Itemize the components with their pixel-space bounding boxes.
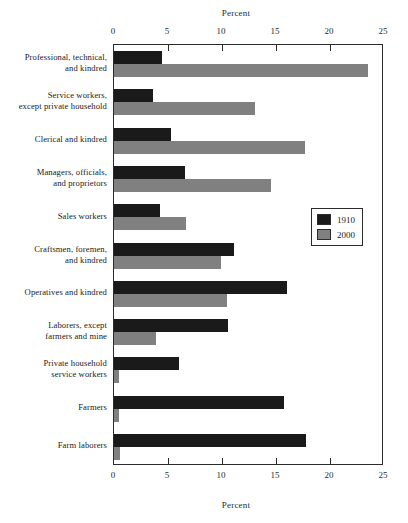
bar-1910 xyxy=(114,357,179,370)
category-label: Private householdservice workers xyxy=(0,358,107,380)
x-tick-label: 15 xyxy=(271,26,280,36)
bar-group xyxy=(114,166,382,192)
x-tick-label: 5 xyxy=(165,470,170,480)
bar-2000 xyxy=(114,64,368,77)
bar-1910 xyxy=(114,281,287,294)
bar-1910 xyxy=(114,89,153,102)
x-tick-label: 5 xyxy=(165,26,170,36)
top-axis-tick-labels: 0510152025 xyxy=(0,26,408,38)
category-label: Farm laborers xyxy=(0,440,107,451)
category-label: Laborers, exceptfarmers and mine xyxy=(0,320,107,342)
category-label-line: and kindred xyxy=(0,63,107,74)
category-label-line: Laborers, except xyxy=(0,320,107,331)
bar-1910 xyxy=(114,243,234,256)
category-label: Clerical and kindred xyxy=(0,134,107,145)
bar-1910 xyxy=(114,434,306,447)
bar-group xyxy=(114,281,382,307)
x-tick-label: 10 xyxy=(217,470,226,480)
bar-1910 xyxy=(114,319,228,332)
bar-1910 xyxy=(114,51,162,64)
category-label-line: and proprietors xyxy=(0,178,107,189)
x-tick-label: 10 xyxy=(217,26,226,36)
bottom-axis-title: Percent xyxy=(0,500,408,510)
bar-group xyxy=(114,396,382,422)
bar-2000 xyxy=(114,217,186,230)
x-tick-label: 0 xyxy=(111,26,116,36)
bar-group xyxy=(114,128,382,154)
bottom-axis-title-text: Percent xyxy=(222,500,250,510)
category-label-line: Sales workers xyxy=(0,211,107,222)
bar-group xyxy=(114,243,382,269)
x-tick-label: 0 xyxy=(111,470,116,480)
top-axis-title: Percent xyxy=(0,8,408,18)
bar-group xyxy=(114,319,382,345)
x-tick-label: 20 xyxy=(325,470,334,480)
bar-group xyxy=(114,357,382,383)
category-label: Farmers xyxy=(0,402,107,413)
bar-2000 xyxy=(114,141,305,154)
x-tickmark xyxy=(330,45,331,51)
bar-group xyxy=(114,434,382,460)
category-label-line: Private household xyxy=(0,358,107,369)
category-label-line: Farmers xyxy=(0,402,107,413)
legend-label: 2000 xyxy=(337,230,355,240)
bar-1910 xyxy=(114,166,185,179)
bar-2000 xyxy=(114,179,271,192)
category-label: Sales workers xyxy=(0,211,107,222)
category-label: Service workers,except private household xyxy=(0,90,107,112)
category-label-line: Managers, officials, xyxy=(0,167,107,178)
category-label-line: Clerical and kindred xyxy=(0,134,107,145)
category-label: Managers, officials,and proprietors xyxy=(0,167,107,189)
category-axis-labels: Professional, technical,and kindredServi… xyxy=(0,44,107,465)
bar-group xyxy=(114,89,382,115)
category-label-line: Service workers, xyxy=(0,90,107,101)
legend-label: 1910 xyxy=(337,215,355,225)
category-label-line: Farm laborers xyxy=(0,440,107,451)
category-label-line: farmers and mine xyxy=(0,331,107,342)
bar-1910 xyxy=(114,396,284,409)
bar-group xyxy=(114,51,382,77)
x-tick-label: 20 xyxy=(325,26,334,36)
category-label-line: except private household xyxy=(0,101,107,112)
x-tickmark xyxy=(168,45,169,51)
bar-2000 xyxy=(114,370,119,383)
top-axis-title-text: Percent xyxy=(222,8,250,18)
bottom-axis-tick-labels: 0510152025 xyxy=(0,470,408,482)
category-label: Operatives and kindred xyxy=(0,287,107,298)
category-label-line: service workers xyxy=(0,369,107,380)
bar-2000 xyxy=(114,256,221,269)
category-label: Professional, technical,and kindred xyxy=(0,52,107,74)
bar-2000 xyxy=(114,102,255,115)
bar-2000 xyxy=(114,447,120,460)
x-tick-label: 15 xyxy=(271,470,280,480)
category-label-line: Craftsmen, foremen, xyxy=(0,244,107,255)
x-tick-label: 25 xyxy=(379,470,388,480)
legend-item: 1910 xyxy=(317,214,355,225)
x-tickmark xyxy=(276,45,277,51)
legend-swatch-icon xyxy=(317,214,331,225)
bar-2000 xyxy=(114,294,227,307)
x-tick-label: 25 xyxy=(379,26,388,36)
x-tickmark xyxy=(222,45,223,51)
legend-swatch-icon xyxy=(317,229,331,240)
legend-item: 2000 xyxy=(317,229,355,240)
bar-2000 xyxy=(114,332,156,345)
category-label-line: and kindred xyxy=(0,255,107,266)
category-label-line: Professional, technical, xyxy=(0,52,107,63)
bar-2000 xyxy=(114,409,119,422)
bar-chart: Percent 0510152025 Professional, technic… xyxy=(0,0,408,523)
category-label: Craftsmen, foremen,and kindred xyxy=(0,244,107,266)
chart-legend: 19102000 xyxy=(311,208,363,246)
plot-area xyxy=(113,44,383,465)
category-label-line: Operatives and kindred xyxy=(0,287,107,298)
bar-1910 xyxy=(114,128,171,141)
bar-1910 xyxy=(114,204,160,217)
